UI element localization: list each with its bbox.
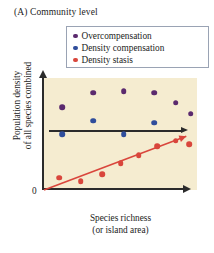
origin-label: 0 [32, 186, 37, 196]
data-point [99, 172, 105, 178]
x-axis-line [42, 188, 184, 190]
legend-label: Overcompensation [82, 31, 152, 42]
legend: Overcompensation Density compensation De… [66, 26, 209, 68]
data-point [121, 131, 127, 137]
data-point [121, 89, 127, 95]
x-axis-label: Species richness (or island area) [44, 213, 197, 236]
legend-dot-icon [73, 34, 78, 39]
y-axis-line [42, 77, 44, 190]
x-axis-label-line1: Species richness [90, 213, 151, 223]
page-title: (A) Community level [14, 7, 98, 17]
data-point [57, 175, 63, 181]
x-axis-label-line2: (or island area) [92, 225, 148, 235]
x-axis-arrow-icon [183, 185, 191, 193]
y-axis-label: Population density of all species combin… [12, 50, 33, 162]
data-point [151, 90, 157, 96]
data-point [136, 152, 142, 158]
figure-panel-a: (A) Community level Overcompensation Den… [0, 0, 214, 253]
legend-label: Density stasis [82, 55, 133, 66]
data-point [187, 141, 193, 147]
legend-label: Density compensation [82, 43, 165, 54]
data-point [154, 144, 160, 150]
legend-item-density-stasis: Density stasis [73, 54, 208, 66]
density-compensation-trendline [49, 130, 183, 132]
legend-item-density-compensation: Density compensation [73, 42, 208, 54]
y-axis-arrow-icon [39, 70, 47, 78]
data-point [151, 120, 157, 126]
data-point [173, 100, 179, 106]
data-point [173, 138, 179, 144]
legend-dot-icon [73, 58, 78, 63]
y-axis-label-line2: of all species combined [22, 62, 32, 150]
data-point [78, 178, 84, 184]
legend-item-overcompensation: Overcompensation [73, 30, 208, 42]
y-axis-label-line1: Population density [12, 71, 22, 140]
data-point [60, 104, 66, 110]
density-compensation-trend-arrow-icon [181, 127, 188, 133]
data-point [90, 90, 96, 96]
data-point [118, 160, 124, 166]
data-point [188, 111, 194, 117]
legend-dot-icon [73, 46, 78, 51]
data-point [90, 118, 96, 124]
data-point [60, 131, 66, 137]
